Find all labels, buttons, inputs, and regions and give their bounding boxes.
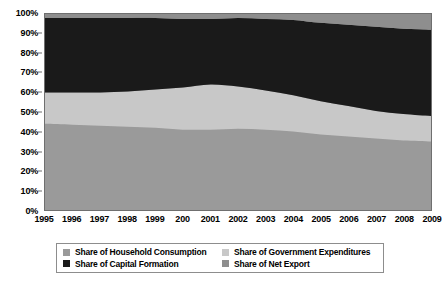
legend-label: Share of Government Expenditures (234, 248, 370, 257)
y-tick-label: 30% (21, 147, 38, 157)
legend-grid: Share of Household ConsumptionShare of G… (63, 248, 377, 268)
x-tick-label: 1995 (34, 214, 53, 224)
x-tick-label: 1996 (62, 214, 81, 224)
legend-swatch-icon (63, 260, 70, 267)
y-tick-mark (38, 191, 42, 192)
y-tick-label: 80% (21, 48, 38, 58)
x-tick-label: 2001 (201, 214, 220, 224)
y-tick-label: 50% (21, 107, 38, 117)
y-tick-mark (38, 92, 42, 93)
plot-frame (44, 13, 432, 211)
legend-swatch-icon (222, 260, 229, 267)
x-tick-label: 2003 (256, 214, 275, 224)
chart-legend: Share of Household ConsumptionShare of G… (56, 243, 384, 273)
x-tick-label: 1999 (145, 214, 164, 224)
x-tick-label: 2002 (228, 214, 247, 224)
x-tick-label: 2008 (395, 214, 414, 224)
y-tick-label: 70% (21, 67, 38, 77)
legend-label: Share of Net Export (234, 260, 310, 269)
y-tick-mark (38, 112, 42, 113)
y-tick-mark (38, 52, 42, 53)
y-tick-mark (38, 151, 42, 152)
x-tick-label: 2007 (367, 214, 386, 224)
y-axis: 0%10%20%30%40%50%60%70%80%90%100% (0, 13, 42, 211)
x-tick-label: 2009 (422, 214, 441, 224)
y-tick-label: 60% (21, 87, 38, 97)
legend-label: Share of Household Consumption (75, 248, 206, 257)
x-tick-label: 200 (175, 214, 189, 224)
x-tick-label: 2005 (312, 214, 331, 224)
x-axis: 1995199619971998199920020012002200320042… (44, 213, 432, 229)
x-tick-label: 2006 (339, 214, 358, 224)
x-tick-label: 1998 (118, 214, 137, 224)
y-tick-label: 40% (21, 127, 38, 137)
y-tick-mark (38, 72, 42, 73)
legend-item[interactable]: Share of Government Expenditures (222, 248, 377, 257)
y-tick-label: 90% (21, 28, 38, 38)
y-tick-mark (38, 131, 42, 132)
legend-swatch-icon (222, 249, 229, 256)
legend-item[interactable]: Share of Capital Formation (63, 260, 218, 269)
y-tick-mark (38, 171, 42, 172)
plot-area (44, 13, 432, 211)
legend-item[interactable]: Share of Net Export (222, 260, 377, 269)
area-series-svg (45, 14, 431, 210)
x-tick-label: 2004 (284, 214, 303, 224)
y-tick-label: 20% (21, 166, 38, 176)
legend-item[interactable]: Share of Household Consumption (63, 248, 218, 257)
y-tick-label: 10% (21, 186, 38, 196)
legend-label: Share of Capital Formation (75, 260, 178, 269)
legend-swatch-icon (63, 249, 70, 256)
x-tick-label: 1997 (90, 214, 109, 224)
y-tick-mark (38, 32, 42, 33)
y-tick-label: 100% (16, 8, 38, 18)
